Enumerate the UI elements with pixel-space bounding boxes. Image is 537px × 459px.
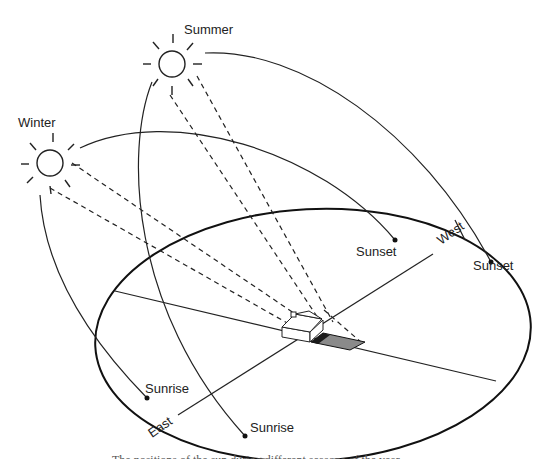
winter-sunset-label: Sunset — [356, 244, 397, 259]
summer-sunset-label: Sunset — [473, 258, 514, 273]
summer-sun-icon — [143, 34, 202, 95]
summer-label: Summer — [184, 22, 234, 37]
summer-ray-2 — [197, 76, 333, 322]
winter-sunset-point — [393, 238, 398, 243]
summer-ray-1 — [170, 95, 318, 318]
summer-sunrise-label: Sunrise — [250, 420, 294, 435]
winter-sunrise-point — [145, 396, 150, 401]
winter-ray-1 — [72, 163, 316, 328]
winter-sun-icon — [21, 133, 80, 194]
winter-sunrise-label: Sunrise — [145, 381, 189, 396]
figure-caption: The positions of the sun during differen… — [112, 453, 400, 459]
sun-path-diagram: Summer Winter Sunset Sunset Sunrise Sunr… — [0, 0, 537, 459]
house-icon — [282, 311, 365, 350]
summer-sunrise-point — [243, 434, 248, 439]
winter-arc-east — [40, 195, 147, 398]
winter-label: Winter — [18, 115, 56, 130]
winter-arc-west — [80, 132, 395, 240]
west-label: West — [434, 218, 467, 247]
